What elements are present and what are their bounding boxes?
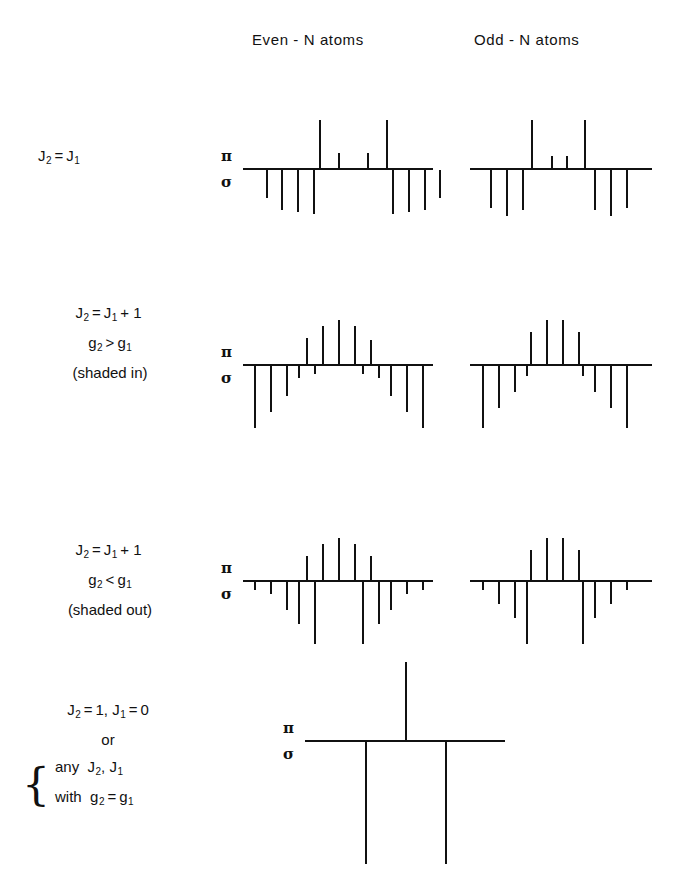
subscript-2: 2 [46, 155, 52, 166]
sigma-component-line [626, 366, 628, 428]
pi-component-line [531, 120, 533, 168]
pi-component-line [546, 320, 548, 364]
pi-component-line [566, 156, 568, 168]
sigma-component-line [506, 170, 508, 216]
pi-axis-label: π [221, 147, 232, 165]
sigma-component-line [298, 366, 300, 378]
g-symbol: g [119, 788, 127, 805]
sigma-component-line [365, 742, 367, 864]
J-symbol: J [109, 758, 117, 775]
spectrum-row-1-even [243, 118, 433, 318]
sigma-component-line [610, 582, 612, 604]
row-2-shading-note: (shaded in) [20, 360, 200, 385]
J-symbol: J [75, 304, 83, 321]
J-symbol: J [66, 147, 74, 164]
spectrum-row-1-odd [470, 118, 652, 318]
spectrum-baseline [243, 168, 433, 170]
sigma-component-line [390, 582, 392, 610]
sigma-component-line [498, 582, 500, 604]
g-symbol: g [117, 334, 125, 351]
pi-component-line [338, 320, 340, 364]
pi-component-line [322, 326, 324, 364]
g-symbol: g [88, 571, 96, 588]
sigma-component-line [297, 170, 299, 212]
sigma-component-line [424, 170, 426, 210]
pi-component-line [546, 538, 548, 580]
J-symbol: J [38, 147, 46, 164]
sigma-component-line [610, 366, 612, 408]
subscript-2: 2 [75, 709, 81, 720]
J-symbol: J [75, 541, 83, 558]
value-zero: 0 [141, 701, 149, 718]
row-4-condition-line-1: J2=1, J1=0 [8, 697, 208, 727]
pi-component-line [319, 120, 321, 168]
sigma-component-line [582, 366, 584, 376]
pi-component-line [578, 332, 580, 364]
sigma-component-line [408, 170, 410, 212]
column-header-even-n: Even - N atoms [252, 31, 364, 48]
sigma-axis-label: σ [221, 369, 232, 387]
pi-component-line [367, 153, 369, 168]
sigma-component-line [526, 366, 528, 376]
subscript-1: 1 [117, 766, 123, 777]
subscript-2: 2 [97, 579, 103, 590]
row-3-condition-line-2: g2<g1 [20, 567, 200, 597]
plus-one: + 1 [117, 541, 144, 558]
subscript-1: 1 [126, 579, 132, 590]
pi-component-line [530, 332, 532, 364]
any-word: any [55, 758, 79, 775]
sigma-axis-label: σ [221, 173, 232, 191]
sigma-component-line [514, 366, 516, 392]
pi-component-line [562, 320, 564, 364]
zeeman-pattern-figure: Even - N atoms Odd - N atoms J2=J1 J2=J1… [0, 0, 674, 891]
sigma-component-line [626, 170, 628, 208]
subscript-2: 2 [97, 342, 103, 353]
pi-axis-label: π [221, 559, 232, 577]
sigma-component-line [313, 170, 315, 214]
sigma-component-line [378, 582, 380, 624]
J-symbol: J [88, 758, 96, 775]
sigma-component-line [378, 366, 380, 378]
sigma-component-line [314, 582, 316, 644]
sigma-component-line [498, 366, 500, 408]
equals-sign: = [89, 304, 104, 321]
sigma-component-line [610, 170, 612, 216]
pi-component-line [551, 156, 553, 168]
equals-sign: = [89, 541, 104, 558]
pi-component-line [354, 326, 356, 364]
row-2-condition-line-2: g2>g1 [20, 330, 200, 360]
sigma-component-line [266, 170, 268, 198]
pi-axis-label: π [283, 719, 294, 737]
J-symbol: J [112, 701, 120, 718]
row-4-brace-lines: any J2, J1 with g2=g1 [55, 754, 134, 814]
sigma-component-line [362, 582, 364, 644]
equals-sign: = [52, 147, 67, 164]
subscript-1: 1 [126, 342, 132, 353]
row-2-condition-line-1: J2=J1+ 1 [20, 300, 200, 330]
row-label-4: J2=1, J1=0 or { any J2, J1 with g2=g1 [8, 697, 208, 814]
greater-than-sign: > [103, 334, 118, 351]
comma: , [104, 701, 108, 718]
pi-component-line [354, 544, 356, 580]
pi-component-line [306, 556, 308, 580]
sigma-component-line [254, 366, 256, 428]
row-3-shading-note: (shaded out) [20, 597, 200, 622]
sigma-component-line [626, 582, 628, 590]
J-symbol: J [67, 701, 75, 718]
sigma-axis-label: σ [283, 745, 294, 763]
sigma-component-line [281, 170, 283, 210]
sigma-component-line [286, 582, 288, 610]
pi-component-line [530, 550, 532, 580]
pi-component-line [370, 556, 372, 580]
value-one: 1 [95, 701, 103, 718]
sigma-component-line [526, 582, 528, 644]
pi-component-line [370, 340, 372, 364]
pi-component-line [322, 544, 324, 580]
sigma-component-line [298, 582, 300, 624]
pi-component-line [562, 538, 564, 580]
pi-component-line [578, 550, 580, 580]
equals-sign: = [81, 701, 96, 718]
sigma-component-line [522, 170, 524, 210]
sigma-component-line [482, 582, 484, 590]
sigma-component-line [594, 582, 596, 618]
